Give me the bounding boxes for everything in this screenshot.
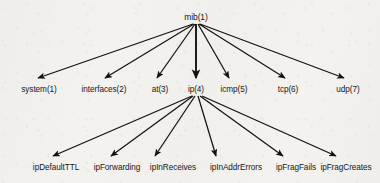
edges-from-ip — [53, 96, 336, 156]
node-label-tcp: tcp(6) — [278, 85, 299, 94]
node-label-icmp: icmp(5) — [221, 85, 248, 94]
node-label-ipinaddrerrors: ipInAddrErrors — [210, 163, 262, 172]
node-label-ip: ip(4) — [188, 85, 204, 94]
node-label-ipdefaultttl: ipDefaultTTL — [33, 163, 80, 172]
node-label-udp: udp(7) — [336, 85, 360, 94]
edge-ip-to-ipinreceives — [155, 96, 195, 156]
node-label-ipfragfails: ipFragFails — [276, 163, 316, 172]
edges-from-root — [38, 24, 344, 78]
edge-mib-to-icmp — [198, 24, 229, 78]
node-label-ipforwarding: ipForwarding — [94, 163, 141, 172]
node-label-ipfragcreates: ipFragCreates — [320, 163, 371, 172]
level1-nodes: system(1) interfaces(2) at(3) ip(4) icmp… — [21, 85, 360, 94]
node-label-system: system(1) — [21, 85, 57, 94]
node-label-interfaces: interfaces(2) — [82, 85, 127, 94]
node-label-ipinreceives: ipInReceives — [150, 163, 196, 172]
edge-mib-to-system — [38, 24, 193, 78]
node-label-root: mib(1) — [184, 12, 208, 22]
edge-mib-to-interfaces — [105, 24, 194, 78]
edge-ip-to-ipfragfails — [200, 96, 283, 156]
tree-canvas: mib(1) system(1) interfaces(2) at(3) ip(… — [0, 0, 380, 183]
edge-ip-to-ipfragcreates — [202, 96, 336, 156]
edge-mib-to-at — [157, 24, 195, 78]
node-label-at: at(3) — [152, 85, 169, 94]
mib-tree-diagram: mib(1) system(1) interfaces(2) at(3) ip(… — [0, 0, 380, 183]
level2-nodes: ipDefaultTTL ipForwarding ipInReceives i… — [33, 163, 372, 172]
